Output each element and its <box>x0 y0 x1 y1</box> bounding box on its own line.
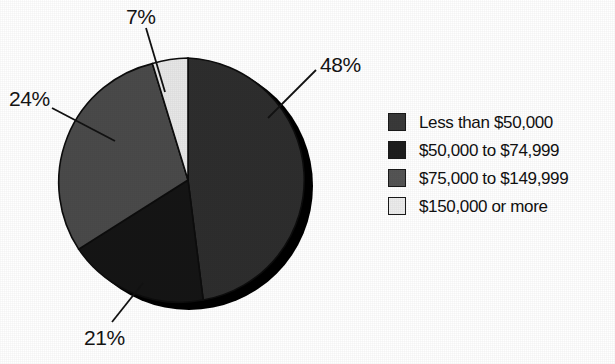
pie-label-24-percent: 24% <box>9 88 50 109</box>
pie-label-7-percent: 7% <box>126 6 156 27</box>
chart-legend: Less than $50,000 $50,000 to $74,999 $75… <box>388 108 613 220</box>
legend-item-150000-or-more: $150,000 or more <box>388 192 613 220</box>
legend-item-less-than-50000: Less than $50,000 <box>388 108 613 136</box>
legend-item-50000-to-74999: $50,000 to $74,999 <box>388 136 613 164</box>
legend-swatch-less-than-50000 <box>388 113 406 131</box>
pie-label-48-percent: 48% <box>320 54 361 75</box>
legend-item-75000-to-149999: $75,000 to $149,999 <box>388 164 613 192</box>
leader-line-48 <box>268 70 316 118</box>
legend-label-75000-to-149999: $75,000 to $149,999 <box>419 170 568 187</box>
pie-slice-less-than-50000 <box>188 58 304 300</box>
pie-plot-area: 7% 48% 24% 21% <box>0 0 380 364</box>
legend-label-150000-or-more: $150,000 or more <box>419 198 548 215</box>
legend-swatch-50000-to-74999 <box>388 141 406 159</box>
legend-label-less-than-50000: Less than $50,000 <box>419 114 553 131</box>
legend-swatch-75000-to-149999 <box>388 169 406 187</box>
pie-chart-figure: 7% 48% 24% 21% Less than $50,000 $50,000… <box>0 0 615 364</box>
legend-swatch-150000-or-more <box>388 197 406 215</box>
legend-label-50000-to-74999: $50,000 to $74,999 <box>419 142 559 159</box>
pie-label-21-percent: 21% <box>84 327 125 348</box>
